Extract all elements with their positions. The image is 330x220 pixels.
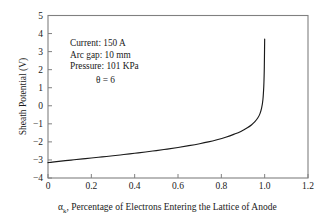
y-tick-label: 0 [38, 101, 43, 111]
y-tick-label: 3 [38, 47, 43, 57]
x-tick-label: 0.4 [129, 181, 141, 191]
y-tick-label: −1 [33, 119, 43, 129]
x-axis-title: αk, Percentage of Electrons Entering the… [58, 202, 277, 214]
annotation-pressure: Pressure: 101 KPa [70, 61, 139, 71]
y-tick-label: −2 [33, 137, 43, 147]
y-tick-label: −4 [33, 173, 43, 183]
y-tick-label: 2 [38, 65, 43, 75]
x-tick-label: 0.8 [215, 181, 227, 191]
x-tick-label: 1.2 [302, 181, 314, 191]
y-tick-label: 1 [38, 83, 43, 93]
y-tick-label: 5 [38, 11, 43, 21]
y-axis-tick-labels: 543210−1−2−3−4 [33, 11, 43, 184]
x-tick-label: 0.6 [172, 181, 184, 191]
x-tick-label: 0 [46, 181, 51, 191]
x-tick-label: 0.2 [85, 181, 97, 191]
y-axis-title: Sheath Potential (V) [18, 58, 29, 136]
annotation-arc-gap: Arc gap: 10 mm [70, 50, 131, 60]
annotation-current: Current: 150 A [70, 38, 126, 48]
y-tick-label: 4 [38, 29, 43, 39]
y-tick-label: −3 [33, 155, 43, 165]
annotation-theta: θ = 6 [96, 75, 115, 85]
x-axis-tick-labels: 00.20.40.60.81.01.2 [46, 181, 315, 191]
x-axis-title-suffix: , Percentage of Electrons Entering the L… [66, 202, 276, 212]
x-tick-label: 1.0 [259, 181, 271, 191]
chart-figure: 00.20.40.60.81.01.2 543210−1−2−3−4 Curre… [0, 0, 330, 220]
chart-plot-svg: 00.20.40.60.81.01.2 543210−1−2−3−4 Curre… [0, 0, 330, 220]
x-axis-ticks [48, 174, 308, 178]
y-axis-ticks [48, 16, 52, 179]
